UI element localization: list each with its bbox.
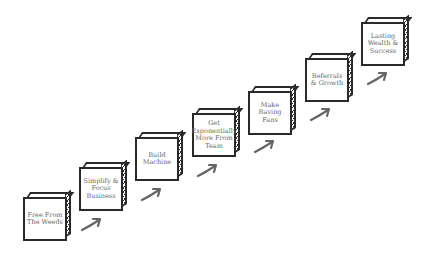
staircase-diagram: Free From The Weeds Simplify & Focus Bus…: [0, 0, 438, 260]
step-label: Make Raving Fans: [256, 102, 283, 125]
curved-arrow-icon: [253, 138, 277, 154]
box-front-face: Free From The Weeds: [23, 197, 67, 241]
step-box-1: Free From The Weeds: [23, 192, 71, 240]
step-box-3: Build Machine: [135, 132, 183, 180]
box-front-face: Make Raving Fans: [248, 91, 292, 135]
box-front-face: Build Machine: [135, 137, 179, 181]
step-box-5: Make Raving Fans: [248, 86, 296, 134]
curved-arrow-icon: [140, 186, 164, 202]
box-front-face: Get Exponentially More From Team: [192, 113, 236, 157]
curved-arrow-icon: [80, 216, 104, 232]
step-label: Lasting Wealth & Success: [366, 33, 401, 56]
box-front-face: Lasting Wealth & Success: [361, 22, 405, 66]
step-label: Free From The Weeds: [25, 212, 65, 227]
box-front-face: Referrals & Growth: [305, 58, 349, 102]
curved-arrow-icon: [309, 106, 333, 122]
step-label: Build Machine: [141, 152, 173, 167]
step-box-4: Get Exponentially More From Team: [192, 108, 240, 156]
step-box-6: Referrals & Growth: [305, 53, 353, 101]
step-label: Get Exponentially More From Team: [189, 120, 238, 150]
step-box-7: Lasting Wealth & Success: [361, 17, 409, 65]
curved-arrow-icon: [366, 70, 390, 86]
step-box-2: Simplify & Focus Business: [79, 162, 127, 210]
box-front-face: Simplify & Focus Business: [79, 167, 123, 211]
curved-arrow-icon: [196, 162, 220, 178]
step-label: Simplify & Focus Business: [82, 178, 121, 201]
step-label: Referrals & Growth: [309, 73, 345, 88]
